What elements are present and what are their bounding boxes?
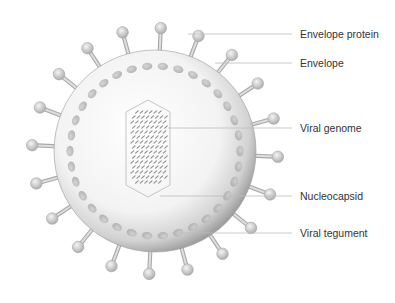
spike-head-icon <box>82 42 94 54</box>
spike-head-icon <box>106 260 118 272</box>
spike-head-icon <box>264 189 276 201</box>
label-viral-tegument: Viral tegument <box>300 227 368 239</box>
label-envelope: Envelope <box>300 57 344 69</box>
spike-head-icon <box>217 248 229 260</box>
spike-head-icon <box>155 22 167 34</box>
spike-head-icon <box>268 113 280 125</box>
spike-head-icon <box>252 78 264 90</box>
spike-head-icon <box>143 268 155 280</box>
spike-head-icon <box>26 139 38 151</box>
spike-head-icon <box>117 27 129 39</box>
label-nucleocapsid: Nucleocapsid <box>300 190 363 202</box>
spike-head-icon <box>53 68 65 80</box>
virus-diagram <box>0 0 395 303</box>
label-viral-genome: Viral genome <box>300 122 362 134</box>
spike-head-icon <box>226 49 238 61</box>
spike-head-icon <box>34 102 46 114</box>
spike-head-icon <box>193 30 205 42</box>
spike-head-icon <box>46 213 58 225</box>
viral-envelope <box>54 50 256 252</box>
spike-head-icon <box>245 222 257 234</box>
spike-head-icon <box>72 241 84 253</box>
spike-head-icon <box>272 151 284 163</box>
spike-head-icon <box>182 264 194 276</box>
spike-head-icon <box>31 178 43 190</box>
label-envelope-protein: Envelope protein <box>300 28 379 40</box>
